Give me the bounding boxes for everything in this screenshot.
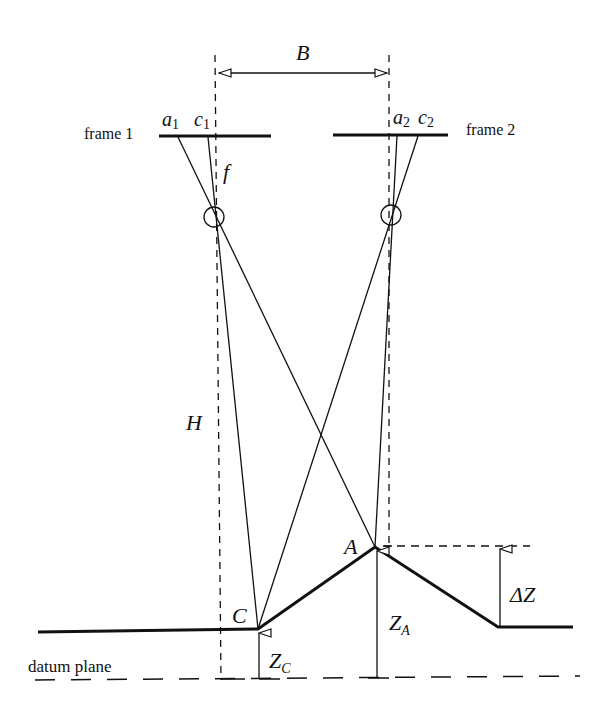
camera1-axis xyxy=(215,55,221,680)
point-C-label: C xyxy=(232,603,247,628)
point-A-label: A xyxy=(342,534,358,559)
datum-plane-label: datum plane xyxy=(28,657,112,676)
c1-label: c1 xyxy=(194,108,210,132)
c2-label: c2 xyxy=(418,106,434,130)
datum-plane xyxy=(35,676,580,680)
ray-c1-C xyxy=(208,137,258,629)
frame2-label: frame 2 xyxy=(466,121,515,138)
flying-height-label: H xyxy=(185,410,203,435)
ZA-label: ZA xyxy=(389,610,410,638)
ZC-label: ZC xyxy=(269,648,291,676)
a2-label: a2 xyxy=(393,106,410,130)
focal-length-label: f xyxy=(223,159,232,184)
lens1-icon xyxy=(204,207,224,227)
ray-c2-C xyxy=(258,136,418,629)
terrain-profile xyxy=(38,547,573,632)
baseline-label: B xyxy=(296,40,309,65)
stereo-diagram: B frame 1 frame 2 a1 c1 a2 c2 f H A C ZA… xyxy=(0,0,605,717)
ray-a1-A xyxy=(178,137,375,547)
lens2-icon xyxy=(381,205,401,225)
frame1-label: frame 1 xyxy=(84,125,133,142)
ray-a2-A xyxy=(375,136,397,547)
deltaZ-label: ΔZ xyxy=(509,582,536,607)
a1-label: a1 xyxy=(162,108,179,132)
